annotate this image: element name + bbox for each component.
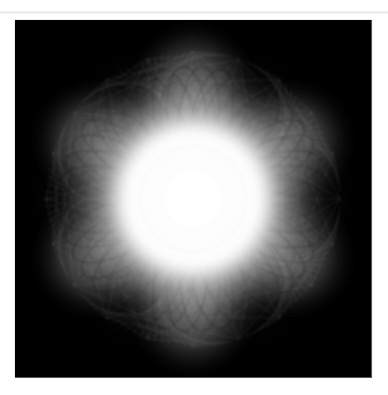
- footer-space: [0, 378, 388, 395]
- rosette-svg: [15, 20, 372, 378]
- figure-plate: [15, 20, 372, 378]
- header-divider-rule: [0, 11, 388, 14]
- core-glow: [43, 49, 343, 349]
- spirograph-glow-image: [15, 20, 372, 378]
- header-strip: [0, 0, 388, 12]
